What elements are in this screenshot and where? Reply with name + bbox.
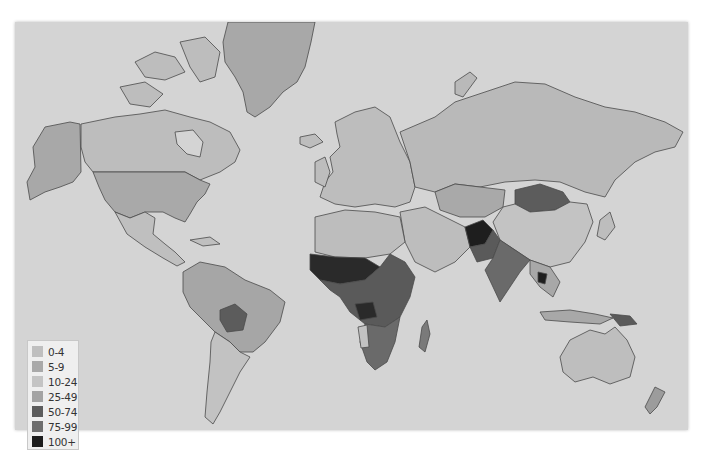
region-europe (320, 107, 415, 207)
world-map (15, 22, 688, 430)
region-alaska (27, 122, 81, 200)
region-japan (597, 212, 615, 240)
legend-label: 75-99 (48, 421, 77, 433)
region-new-zealand (645, 387, 665, 414)
legend-item: 10-24 (32, 374, 78, 389)
legend-label: 0-4 (48, 346, 64, 358)
region-north-africa (315, 210, 405, 258)
legend-swatch (32, 406, 43, 417)
region-laos-cambodia (538, 272, 547, 284)
region-mexico (115, 212, 185, 266)
map-legend: 0-4 5-9 10-24 25-49 50-74 75-99 100+ (27, 340, 79, 450)
legend-label: 50-74 (48, 406, 77, 418)
region-madagascar (419, 320, 430, 352)
legend-swatch (32, 361, 43, 372)
legend-swatch (32, 391, 43, 402)
region-canada-islands (135, 52, 185, 80)
legend-swatch (32, 436, 43, 447)
region-canada (81, 110, 240, 180)
legend-label: 25-49 (48, 391, 77, 403)
legend-swatch (32, 346, 43, 357)
legend-item: 25-49 (32, 389, 78, 404)
region-australia (560, 327, 635, 384)
region-canada-islands-2 (180, 37, 220, 82)
legend-swatch (32, 376, 43, 387)
region-iceland (300, 134, 323, 148)
world-map-panel: 0-4 5-9 10-24 25-49 50-74 75-99 100+ (15, 22, 688, 430)
legend-item: 5-9 (32, 359, 78, 374)
legend-item: 0-4 (32, 344, 78, 359)
region-usa (93, 172, 210, 222)
legend-swatch (32, 421, 43, 432)
region-kazakhstan (435, 184, 505, 217)
legend-item: 100+ (32, 434, 78, 449)
region-indonesia (540, 310, 613, 324)
region-russia (400, 82, 683, 197)
region-novaya-zemlya (455, 72, 477, 97)
region-caribbean (190, 237, 220, 246)
legend-item: 50-74 (32, 404, 78, 419)
legend-label: 10-24 (48, 376, 77, 388)
legend-label: 100+ (48, 436, 76, 448)
legend-item: 75-99 (32, 419, 78, 434)
legend-label: 5-9 (48, 361, 64, 373)
region-canada-islands-3 (120, 82, 163, 107)
region-namibia (358, 325, 369, 348)
region-greenland (223, 22, 315, 117)
region-papua (610, 314, 637, 326)
